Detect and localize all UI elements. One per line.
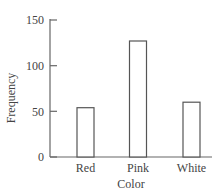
y-axis-title: Frequency: [4, 73, 18, 124]
bar-red: [77, 108, 94, 157]
y-tick-label-100: 100: [26, 59, 44, 73]
y-tick-label-50: 50: [32, 105, 44, 119]
bar-chart: 0 50 100 150 Red Pink White Color Freque…: [0, 0, 222, 195]
y-tick-label-0: 0: [38, 150, 44, 164]
x-tick-label-red: Red: [76, 161, 95, 175]
x-tick-label-pink: Pink: [127, 161, 149, 175]
x-axis-title: Color: [117, 177, 144, 191]
x-tick-label-white: White: [177, 161, 206, 175]
bar-white: [183, 102, 200, 157]
bar-pink: [130, 41, 147, 157]
y-ticks: [50, 20, 57, 157]
y-tick-label-150: 150: [26, 13, 44, 27]
